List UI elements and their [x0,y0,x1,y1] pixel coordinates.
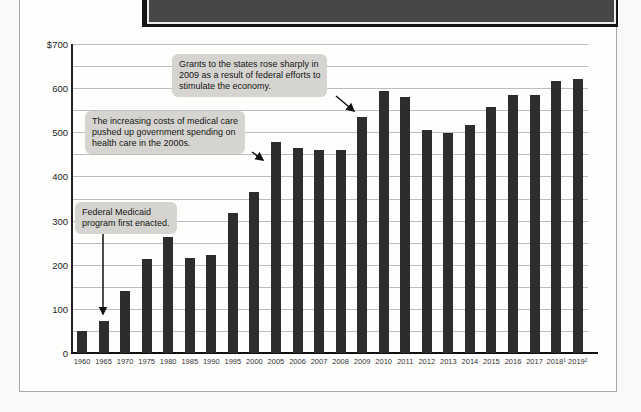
bar-1995 [228,213,238,353]
bar-1990 [206,255,216,353]
bar-2012 [422,130,432,353]
bar-1960 [77,331,87,353]
gridline-600 [73,88,588,89]
bar-2016 [508,95,518,353]
annotation-medical-costs: The increasing costs of medical care pus… [85,111,245,154]
plot-area [73,44,598,353]
bar-2009 [357,117,367,353]
y-tick-label-500: 500 [28,127,68,138]
bar-1985 [185,258,195,353]
y-tick-label-200: 200 [28,260,68,271]
annotation-2009-stimulus: Grants to the states rose sharply in 200… [172,54,327,97]
bar-2014 [465,125,475,353]
y-tick-label-700: $700 [28,39,68,50]
y-tick-label-0: 0 [28,348,68,359]
y-tick-label-400: 400 [28,171,68,182]
bar-1970 [120,291,130,353]
bar-2010 [379,91,389,353]
y-tick-label-100: 100 [28,304,68,315]
annotation-medicaid-enacted: Federal Medicaid program first enacted. [75,202,177,234]
bar-2005 [271,142,281,353]
x-tick-label-2019²: 2019² [563,357,593,366]
bar-2008 [336,150,346,353]
title-banner-cropped [142,0,618,27]
bar-2019² [573,79,583,353]
title-banner-inner [147,0,616,24]
bar-2000 [249,192,259,353]
bar-2006 [293,148,303,353]
bar-2013 [443,133,453,353]
y-tick-label-600: 600 [28,83,68,94]
gridline-650 [73,66,588,67]
bar-2011 [400,97,410,353]
bar-1965 [99,321,109,353]
bar-1975 [142,259,152,353]
bar-2015 [486,107,496,353]
y-tick-label-300: 300 [28,216,68,227]
bar-2018¹ [551,81,561,353]
bar-2017 [530,95,540,353]
bar-2007 [314,150,324,353]
bar-1980 [163,237,173,353]
gridline-700 [73,44,588,45]
